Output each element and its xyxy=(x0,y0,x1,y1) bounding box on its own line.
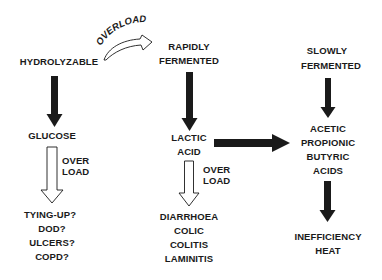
node-label: DIARRHOEA xyxy=(152,210,226,224)
node-label: BUTYRIC xyxy=(290,150,366,164)
node-label: TYING-UP? xyxy=(12,208,92,222)
node-hydrolyzable: HYDROLYZABLE xyxy=(12,55,106,69)
edge-label: LOAD xyxy=(62,166,89,177)
node-label: COLIC xyxy=(152,224,226,238)
node-label: COLITIS xyxy=(152,238,226,252)
node-lactic-acid: LACTIC ACID xyxy=(162,131,216,159)
node-rapidly-fermented: RAPIDLY FERMENTED xyxy=(152,40,226,68)
node-label: FERMENTED xyxy=(294,58,368,73)
node-glucose: GLUCOSE xyxy=(22,129,82,143)
node-label: HEAT xyxy=(286,244,370,258)
edge-label: OVER xyxy=(203,164,230,175)
glucose-overload-label: OVER LOAD xyxy=(62,155,89,177)
arrow-down-solid-icon xyxy=(320,181,336,222)
arrow-down-solid-icon xyxy=(321,78,336,118)
node-vfa: ACETIC PROPIONIC BUTYRIC ACIDS xyxy=(290,122,366,178)
arrow-down-hollow-icon xyxy=(41,147,63,203)
node-label: RAPIDLY xyxy=(152,40,226,54)
node-label: COPD? xyxy=(12,250,92,264)
node-label: DOD? xyxy=(12,222,92,236)
arrow-down-hollow-icon xyxy=(179,161,199,206)
node-lactic-disorders: DIARRHOEA COLIC COLITIS LAMINITIS xyxy=(152,210,226,266)
carbohydrate-fermentation-diagram: OVERLOAD xyxy=(0,0,382,280)
curved-overload-arrow-icon xyxy=(104,35,152,60)
node-slowly-fermented: SLOWLY FERMENTED xyxy=(294,43,368,73)
arrow-down-solid-icon xyxy=(47,76,63,127)
node-label: SLOWLY xyxy=(294,43,368,58)
lactic-overload-label: OVER LOAD xyxy=(203,164,230,186)
node-label: PROPIONIC xyxy=(290,136,366,150)
arrow-down-solid-icon xyxy=(182,72,198,131)
arrow-right-solid-icon xyxy=(214,134,290,152)
edge-label: LOAD xyxy=(203,175,230,186)
node-label: ACIDS xyxy=(290,164,366,178)
node-label: ULCERS? xyxy=(12,236,92,250)
node-label: LAMINITIS xyxy=(152,252,226,266)
node-vfa-outcomes: INEFFICIENCY HEAT xyxy=(286,230,370,258)
node-label: LACTIC xyxy=(162,131,216,145)
edge-label: OVER xyxy=(62,155,89,166)
node-glucose-disorders: TYING-UP? DOD? ULCERS? COPD? xyxy=(12,208,92,264)
node-label: ACETIC xyxy=(290,122,366,136)
node-label: HYDROLYZABLE xyxy=(12,55,106,69)
node-label: ACID xyxy=(162,145,216,159)
node-label: INEFFICIENCY xyxy=(286,230,370,244)
node-label: FERMENTED xyxy=(152,54,226,68)
node-label: GLUCOSE xyxy=(22,129,82,143)
